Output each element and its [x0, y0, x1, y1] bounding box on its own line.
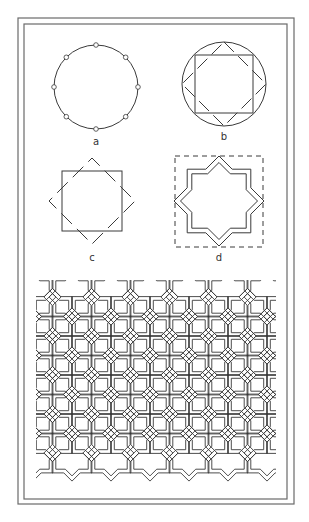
star-band-outer: [297, 327, 309, 383]
label-a: a: [93, 136, 99, 147]
division-point: [94, 43, 99, 48]
star-outer-line: [174, 156, 264, 246]
square: [62, 171, 122, 231]
panel-a-circle-divided-eight: [52, 43, 141, 132]
interlaced-star-pattern: [0, 269, 309, 481]
division-point: [94, 127, 99, 132]
star-inner-line: [181, 163, 258, 240]
star-band-outer: [297, 405, 309, 461]
panel-d-eight-point-star-band: [174, 156, 264, 247]
division-point: [136, 85, 141, 90]
square: [195, 55, 253, 113]
pattern-tiles: [0, 269, 309, 481]
label-b: b: [221, 131, 227, 142]
label-d: d: [216, 252, 222, 263]
star-band-outer: [0, 405, 42, 461]
star-band-outer: [0, 366, 42, 422]
geometric-construction-diagram: a b c d: [0, 0, 309, 522]
star-band-outer: [297, 288, 309, 344]
division-point: [64, 114, 69, 119]
star-band-inner: [303, 411, 309, 457]
star-band-outer: [0, 288, 42, 344]
panel-b-circle-inscribed-squares: [182, 42, 266, 126]
star-band-inner: [303, 333, 309, 379]
star-band-inner: [303, 294, 309, 340]
label-c: c: [89, 252, 95, 263]
division-point: [123, 114, 128, 119]
division-point: [123, 55, 128, 60]
star-band-inner: [303, 372, 309, 418]
star-band-outer: [297, 366, 309, 422]
division-point: [64, 55, 69, 60]
panel-c-overlapping-squares: [49, 158, 135, 244]
division-point: [52, 85, 57, 90]
star-band-outer: [0, 327, 42, 383]
